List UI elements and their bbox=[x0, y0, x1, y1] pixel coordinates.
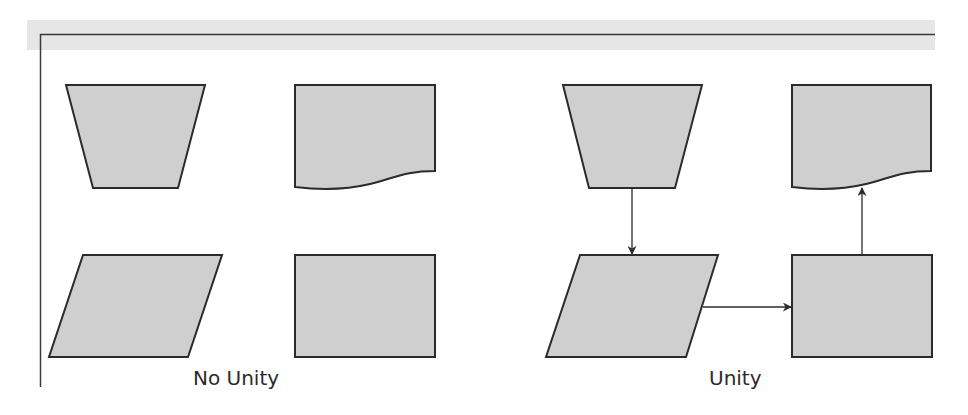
process-rectangle bbox=[792, 255, 932, 357]
document-shape bbox=[792, 85, 931, 189]
manual-operation-trapezoid bbox=[66, 85, 205, 188]
data-parallelogram bbox=[546, 255, 718, 357]
panel-label-no-unity: No Unity bbox=[193, 366, 279, 390]
panel-no-unity bbox=[49, 85, 435, 357]
document-shape bbox=[295, 85, 435, 189]
panel-label-unity: Unity bbox=[709, 366, 762, 390]
manual-operation-trapezoid bbox=[563, 85, 702, 188]
diagram-canvas bbox=[0, 0, 968, 415]
process-rectangle bbox=[295, 255, 435, 357]
panel-unity bbox=[546, 85, 932, 357]
data-parallelogram bbox=[49, 255, 222, 357]
